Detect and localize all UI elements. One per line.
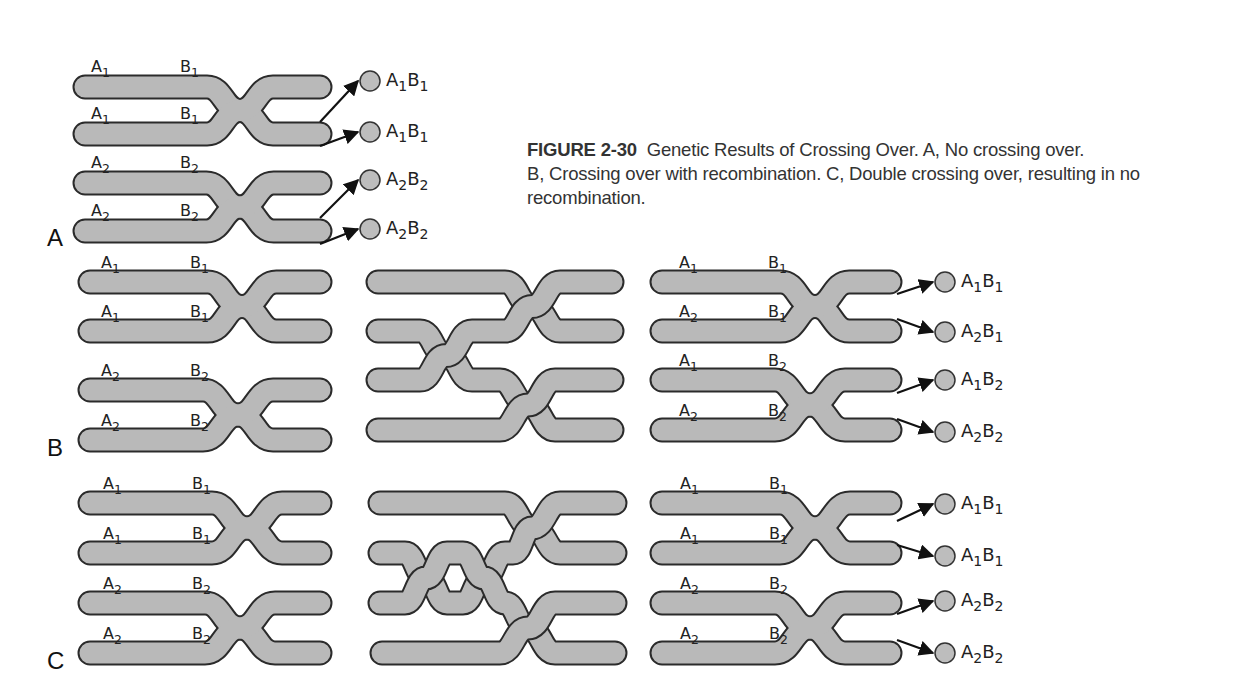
arrow-icon: [897, 380, 933, 393]
gamete-icon: [935, 272, 955, 292]
gamete-icon: [360, 71, 380, 91]
gamete-icon: [935, 591, 955, 611]
gamete-icon: [360, 122, 380, 142]
panel-a-pair-1: [85, 87, 320, 134]
gamete-icon: [935, 494, 955, 514]
gamete-label: A2B2: [961, 589, 1004, 614]
arrow-icon: [897, 282, 933, 294]
panel-letter-a: A: [47, 224, 63, 251]
gamete-b-2: [897, 319, 955, 342]
gamete-label: A1B1: [961, 270, 1004, 295]
gamete-icon: [935, 643, 955, 663]
gamete-label: A1B2: [961, 368, 1004, 393]
gamete-b-3: [897, 370, 955, 393]
gamete-icon: [935, 322, 955, 342]
gamete-label: A2B1: [961, 320, 1004, 345]
gamete-c-3: [897, 591, 955, 614]
gamete-label: A2B2: [961, 641, 1004, 666]
gamete-icon: [360, 170, 380, 190]
gamete-icon: [935, 422, 955, 442]
gamete-label: A2B2: [961, 420, 1004, 445]
panel-letter-c: C: [47, 647, 64, 674]
arrow-icon: [897, 640, 933, 653]
gamete-c-2: [897, 545, 955, 566]
gamete-label: A2B2: [386, 217, 429, 242]
gamete-label: A2B2: [386, 168, 429, 193]
panel-a-pair-2: [85, 183, 320, 231]
gamete-label: A1B1: [961, 544, 1004, 569]
gamete-label: A1B1: [386, 69, 429, 94]
gamete-c-4: [897, 640, 955, 663]
gamete-c-1: [897, 494, 955, 521]
crossing-over-diagram: A1B1A1B1A2B2A2B2A1B1A1B1A2B2A2B2AA1B1A1B…: [0, 0, 1248, 687]
gamete-icon: [935, 370, 955, 390]
gamete-label: A1B1: [961, 492, 1004, 517]
gamete-label: A1B1: [386, 120, 429, 145]
gamete-icon: [360, 219, 380, 239]
gamete-b-4: [897, 419, 955, 442]
gamete-icon: [935, 546, 955, 566]
panel-letter-b: B: [47, 434, 63, 461]
gamete-b-1: [897, 272, 955, 294]
arrow-icon: [897, 504, 933, 521]
